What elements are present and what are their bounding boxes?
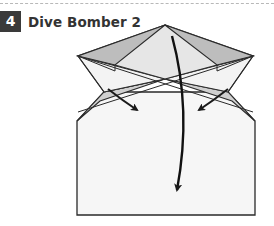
paper-body	[77, 92, 255, 215]
folding-diagram	[0, 0, 274, 226]
